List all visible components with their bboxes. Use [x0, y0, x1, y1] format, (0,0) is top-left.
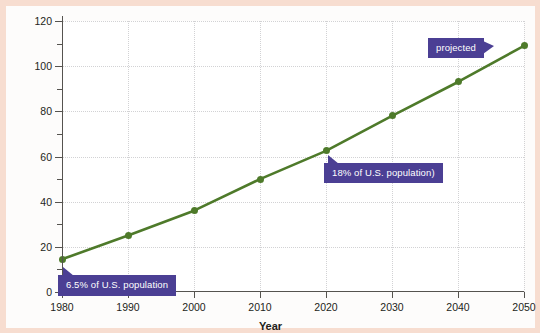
callout-label: projected [436, 42, 476, 53]
x-tick-label-2020: 2020 [314, 301, 337, 313]
x-axis-title: Year [6, 320, 535, 332]
callout-label: 18% of U.S. population) [332, 167, 435, 178]
x-tick-2010 [260, 292, 261, 298]
y-tick-80 [55, 111, 62, 112]
y-minor-tick-10 [57, 269, 62, 270]
callout-projected: projected [428, 38, 484, 59]
x-tick-label-1990: 1990 [116, 301, 139, 313]
data-point-2030 [389, 112, 396, 119]
x-tick-2050 [524, 292, 525, 298]
y-tick-label-80: 80 [40, 105, 52, 117]
data-point-2010 [257, 176, 264, 183]
line-path [62, 21, 524, 292]
callout-label: 6.5% of U.S. population [66, 279, 168, 290]
callout-pointer-icon [63, 267, 74, 276]
y-minor-tick-30 [57, 224, 62, 225]
data-point-2020 [323, 147, 330, 154]
callout-18-percent: 18% of U.S. population) [324, 163, 443, 184]
x-tick-label-2010: 2010 [248, 301, 271, 313]
y-minor-tick-70 [57, 134, 62, 135]
x-tick-2020 [326, 292, 327, 298]
y-axis [62, 16, 63, 292]
data-point-2050 [521, 42, 528, 49]
y-tick-120 [55, 21, 62, 22]
gridline-x-2050 [524, 21, 525, 292]
x-tick-2000 [194, 292, 195, 298]
y-minor-tick-90 [57, 89, 62, 90]
x-tick-label-2040: 2040 [446, 301, 469, 313]
x-tick-2030 [392, 292, 393, 298]
y-tick-label-0: 0 [46, 286, 52, 298]
data-point-2000 [191, 207, 198, 214]
y-tick-60 [55, 157, 62, 158]
y-tick-label-100: 100 [34, 60, 52, 72]
y-tick-label-120: 120 [34, 15, 52, 27]
data-point-1990 [125, 232, 132, 239]
y-tick-label-40: 40 [40, 196, 52, 208]
callout-6-5-percent: 6.5% of U.S. population [58, 275, 176, 296]
plot-area [62, 21, 524, 292]
callout-pointer-icon [328, 155, 339, 164]
y-tick-label-20: 20 [40, 241, 52, 253]
y-tick-40 [55, 202, 62, 203]
y-tick-100 [55, 66, 62, 67]
y-tick-20 [55, 247, 62, 248]
figure-page: U.S. Population (millions) 0204060801001… [0, 0, 540, 333]
chart-canvas: U.S. Population (millions) 0204060801001… [6, 6, 535, 328]
x-tick-label-2030: 2030 [380, 301, 403, 313]
callout-pointer-icon [483, 41, 494, 54]
population-line [62, 46, 524, 259]
x-tick-label-1980: 1980 [50, 301, 73, 313]
x-tick-2040 [458, 292, 459, 298]
y-minor-tick-50 [57, 179, 62, 180]
y-tick-label-60: 60 [40, 151, 52, 163]
x-tick-label-2000: 2000 [182, 301, 205, 313]
x-tick-label-2050: 2050 [512, 301, 535, 313]
population-line-series [62, 21, 524, 292]
y-minor-tick-110 [57, 44, 62, 45]
